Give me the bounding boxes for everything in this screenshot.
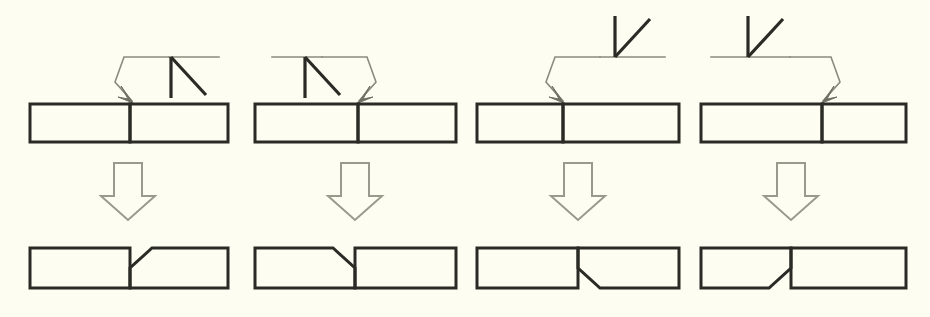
diagram-canvas xyxy=(0,0,930,317)
welding-symbol-diagram xyxy=(0,0,930,317)
